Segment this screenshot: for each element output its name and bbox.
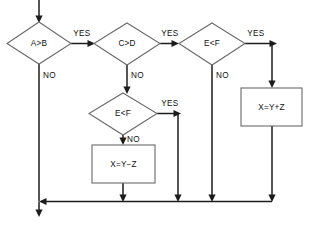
connector-d1-yes	[71, 40, 95, 47]
edge-label-no-c-gt-d: NO	[131, 71, 144, 80]
decision-label-e-lt-f-top: E<F	[204, 39, 220, 48]
decision-label-c-gt-d: C>D	[118, 39, 135, 48]
decision-node-a-gt-b[interactable]: A>B	[7, 22, 71, 64]
connector-p1-merge	[268, 126, 275, 202]
decision-node-e-lt-f-top[interactable]: E<F	[179, 23, 245, 65]
edge-label-yes-e-lt-f-top: YES	[247, 29, 265, 38]
connector-d2-yes	[160, 40, 179, 47]
edge-label-no-e-lt-f-top: NO	[216, 71, 229, 80]
connector-merge-rail	[39, 198, 272, 205]
connector-d4-no	[119, 135, 126, 145]
process-node-x-equals-y-minus-z[interactable]: X=Y−Z	[92, 145, 155, 183]
diagram-canvas: A>B C>D E<F E<F X=Y+Z X=Y−Z	[0, 0, 317, 226]
flowchart-diagram: A>B C>D E<F E<F X=Y+Z X=Y−Z	[0, 0, 317, 226]
connector-d3-no	[208, 65, 215, 202]
decision-node-c-gt-d[interactable]: C>D	[94, 23, 160, 65]
edge-label-no-a-gt-b: NO	[43, 71, 56, 80]
connector-d3-yes	[245, 40, 277, 88]
process-label-x-equals-y-minus-z: X=Y−Z	[110, 160, 137, 169]
process-node-x-equals-y-plus-z[interactable]: X=Y+Z	[241, 88, 302, 126]
edge-label-yes-e-lt-f-middle: YES	[161, 99, 179, 108]
process-label-x-equals-y-plus-z: X=Y+Z	[258, 103, 285, 112]
decision-label-a-gt-b: A>B	[31, 39, 48, 48]
edge-label-yes-c-gt-d: YES	[161, 29, 179, 38]
connector-entry	[35, 0, 42, 23]
connector-p2-merge	[119, 183, 126, 202]
decision-node-e-lt-f-middle[interactable]: E<F	[89, 93, 157, 135]
edge-label-yes-a-gt-b: YES	[73, 29, 91, 38]
shape-layer: A>B C>D E<F E<F X=Y+Z X=Y−Z	[7, 22, 302, 183]
edge-label-no-e-lt-f-middle: NO	[127, 135, 140, 144]
connector-exit	[35, 202, 42, 218]
decision-label-e-lt-f-middle: E<F	[115, 109, 131, 118]
connector-d4-yes	[157, 110, 182, 202]
connector-d2-no	[123, 65, 130, 94]
